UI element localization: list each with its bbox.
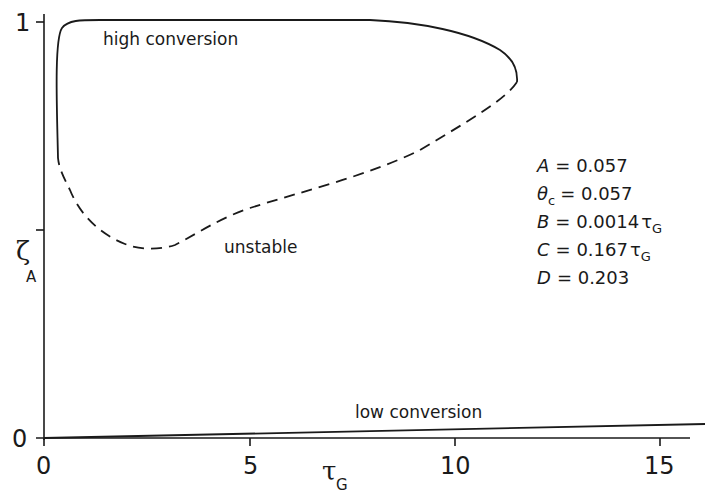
param-A: A= 0.057	[536, 155, 628, 176]
y-axis-title-sub: A	[26, 268, 37, 286]
param-D-symbol: D	[537, 267, 551, 288]
svg-text:C= 0.167τG: C= 0.167τG	[537, 239, 651, 264]
x-tick-label-0: 0	[36, 452, 51, 480]
param-theta-symbol: θ	[537, 183, 548, 204]
param-D-value: = 0.203	[557, 267, 629, 288]
param-A-value: = 0.057	[555, 155, 627, 176]
param-D: D= 0.203	[537, 267, 629, 288]
label-low-conversion: low conversion	[355, 402, 482, 422]
svg-text:θc= 0.057: θc= 0.057	[537, 183, 633, 208]
y-axis-title-main: ζ	[16, 236, 30, 266]
svg-text:B= 0.0014τG: B= 0.0014τG	[537, 211, 662, 236]
param-C-symbol: C	[537, 239, 550, 260]
y-tick-label-1: 1	[15, 9, 30, 37]
x-axis-title-main: τ	[322, 456, 336, 486]
param-theta-sub: c	[548, 193, 555, 208]
y-axis-title: ζ A	[16, 236, 37, 286]
param-C-value: = 0.167	[556, 239, 628, 260]
param-theta-c: θc= 0.057	[537, 183, 633, 208]
bifurcation-chart: 1 0 0 5 10 15 τ G ζ A high conversion un…	[0, 0, 717, 498]
param-B-value: = 0.0014	[555, 211, 639, 232]
svg-text:D= 0.203: D= 0.203	[537, 267, 629, 288]
parameter-list: A= 0.057 θc= 0.057 B= 0.0014τG C= 0.167τ…	[536, 155, 662, 288]
x-axis-title-sub: G	[336, 476, 348, 494]
param-A-symbol: A	[536, 155, 549, 176]
param-B-unit: τ	[641, 211, 652, 232]
label-unstable: unstable	[224, 237, 297, 257]
param-C-unit-sub: G	[641, 249, 651, 264]
unstable-curve	[58, 82, 517, 249]
x-tick-label-10: 10	[440, 452, 471, 480]
x-tick-label-15: 15	[644, 452, 675, 480]
param-theta-value: = 0.057	[560, 183, 632, 204]
param-C-unit: τ	[630, 239, 641, 260]
y-tick-label-0: 0	[12, 425, 27, 453]
svg-text:A= 0.057: A= 0.057	[536, 155, 628, 176]
x-axis-title: τ G	[322, 456, 348, 494]
low-conversion-curve	[44, 424, 705, 438]
x-tick-label-5: 5	[243, 452, 258, 480]
label-high-conversion: high conversion	[103, 29, 238, 49]
param-B-unit-sub: G	[652, 221, 662, 236]
param-B-symbol: B	[537, 211, 549, 232]
param-C: C= 0.167τG	[537, 239, 651, 264]
param-B: B= 0.0014τG	[537, 211, 662, 236]
